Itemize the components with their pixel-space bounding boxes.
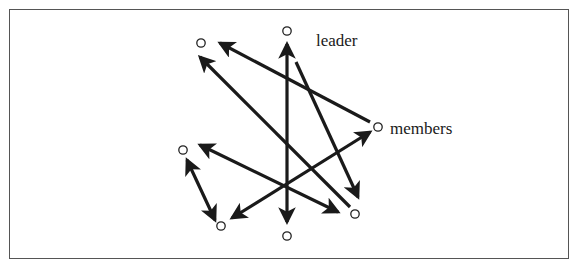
member-node [179,146,187,154]
member-node [197,39,205,47]
member-node [217,222,225,230]
double-arrow-edge [200,145,338,212]
member-node [351,210,359,218]
arrow-edge [220,43,370,122]
leader-label: leader [316,32,358,49]
arrow-edge [296,62,358,197]
leader-node [283,27,291,35]
double-arrow-edge [187,160,215,220]
member-node [283,232,291,240]
member-node [374,123,382,131]
edge-group [187,43,370,222]
members-label: members [390,120,452,137]
network-diagram [0,0,576,270]
